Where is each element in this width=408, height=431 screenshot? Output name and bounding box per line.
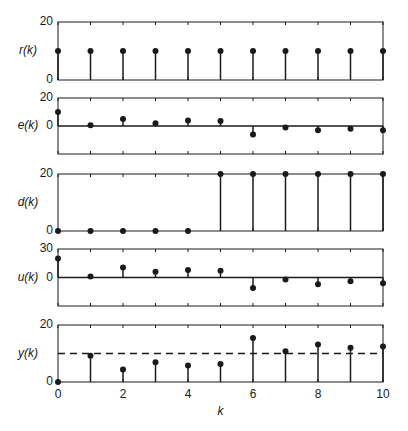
stem-marker [250,171,256,177]
stem-marker [218,48,224,54]
stem-marker [250,285,256,291]
stem-marker [283,48,289,54]
stem-marker [120,366,126,372]
y-tick-label-zero: 0 [46,223,53,237]
stem-plot-figure: 200r(k)200e(k)200d(k)300u(k)200y(k)02468… [0,0,408,431]
x-tick-label: 6 [250,387,257,401]
stem-marker [55,228,61,234]
stem-marker [348,278,354,284]
stem-marker [380,48,386,54]
x-tick-label: 2 [120,387,127,401]
stem-marker [185,267,191,273]
stem-marker [380,171,386,177]
stem-marker [348,48,354,54]
stem-marker [153,269,159,275]
stem-marker [315,171,321,177]
stem-marker [120,228,126,234]
stem-marker [348,345,354,351]
stem-marker [250,131,256,137]
stem-marker [88,48,94,54]
stem-marker [88,228,94,234]
stem-marker [153,359,159,365]
y-axis-label: y(k) [17,346,38,360]
y-axis-label: d(k) [18,195,39,209]
stem-marker [250,335,256,341]
stem-marker [218,171,224,177]
stem-marker [120,48,126,54]
x-axis-label: k [218,404,225,418]
stem-marker [88,353,94,359]
stem-marker [88,122,94,128]
stem-marker [315,127,321,133]
stem-marker [185,362,191,368]
y-tick-label-max: 30 [40,241,54,255]
stem-marker [250,48,256,54]
stem-marker [185,228,191,234]
stem-marker [218,268,224,274]
stem-marker [348,126,354,132]
x-tick-label: 10 [376,387,390,401]
y-tick-label-max: 20 [40,90,54,104]
stem-marker [55,379,61,385]
y-tick-label-zero: 0 [46,118,53,132]
y-tick-label-max: 20 [40,14,54,28]
x-tick-label: 8 [315,387,322,401]
stem-marker [315,341,321,347]
y-tick-label-max: 20 [40,166,54,180]
stem-marker [380,280,386,286]
stem-marker [153,48,159,54]
stem-marker [120,116,126,122]
stem-marker [55,48,61,54]
stem-marker [55,109,61,115]
stem-marker [153,120,159,126]
stem-marker [283,124,289,130]
y-tick-label-zero: 0 [46,270,53,284]
y-axis-label: u(k) [18,270,39,284]
y-tick-label-zero: 0 [46,374,53,388]
stem-marker [283,171,289,177]
stem-marker [88,274,94,280]
stem-marker [380,127,386,133]
y-tick-label-zero: 0 [46,72,53,86]
stem-marker [218,118,224,124]
y-axis-label: r(k) [19,43,37,57]
stem-marker [120,265,126,271]
stem-marker [153,228,159,234]
x-tick-label: 4 [185,387,192,401]
stem-marker [348,171,354,177]
y-axis-label: e(k) [18,118,39,132]
stacked-stem-plots: 200r(k)200e(k)200d(k)300u(k)200y(k)02468… [0,0,408,431]
stem-marker [185,48,191,54]
stem-marker [218,361,224,367]
stem-marker [380,343,386,349]
stem-marker [315,281,321,287]
x-tick-label: 0 [55,387,62,401]
y-tick-label-max: 20 [40,317,54,331]
stem-marker [283,276,289,282]
stem-marker [315,48,321,54]
stem-marker [185,117,191,123]
stem-marker [283,348,289,354]
stem-marker [55,256,61,262]
